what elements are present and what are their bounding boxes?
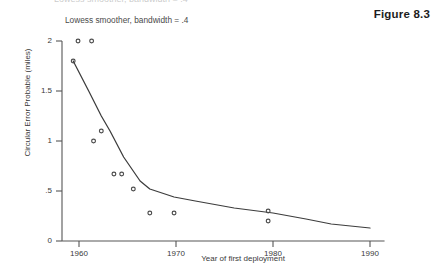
scatter-point xyxy=(92,139,96,143)
lowess-curve-layer xyxy=(73,61,370,228)
x-tick-label: 1980 xyxy=(253,249,293,258)
y-tick-label: 1 xyxy=(28,136,52,145)
scatter-point xyxy=(120,172,124,176)
y-tick-label: 2 xyxy=(28,36,52,45)
scatter-point xyxy=(172,211,176,215)
x-tick-label: 1960 xyxy=(59,249,99,258)
figure-canvas: Lowess smoother, bandwidth = .4 Figure 8… xyxy=(0,0,438,274)
scatter-point xyxy=(99,129,103,133)
y-tick-label: 1.5 xyxy=(28,86,52,95)
scatter-point xyxy=(266,209,270,213)
x-tick-label: 1970 xyxy=(156,249,196,258)
y-tick-label: .5 xyxy=(28,186,52,195)
scatter-point xyxy=(90,39,94,43)
y-tick-label: 0 xyxy=(28,236,52,245)
scatter-point xyxy=(76,39,80,43)
scatter-point xyxy=(148,211,152,215)
scatter-point xyxy=(112,172,116,176)
x-tick-label: 1990 xyxy=(350,249,390,258)
scatter-point xyxy=(131,187,135,191)
plot-area xyxy=(0,0,438,274)
axis-layer xyxy=(56,41,385,247)
scatter-point xyxy=(266,219,270,223)
lowess-curve xyxy=(73,61,370,228)
